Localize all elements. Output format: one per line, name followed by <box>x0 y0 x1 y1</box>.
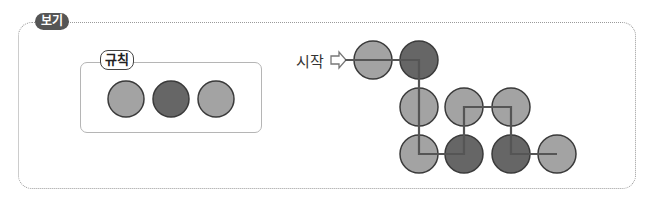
rule-circle-light <box>198 81 234 117</box>
rule-circle-dark <box>153 81 189 117</box>
rule-circles <box>108 81 234 117</box>
hollow-arrow-icon <box>331 52 346 68</box>
path-diagram <box>0 0 652 203</box>
rule-circle-light <box>108 81 144 117</box>
